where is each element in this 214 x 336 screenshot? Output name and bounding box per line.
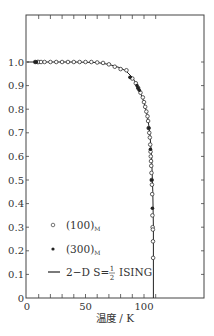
point-100 [150,183,154,187]
x-tick-label: 50 [79,301,92,312]
legend-marker-open-circle [51,223,55,227]
point-100 [119,67,123,71]
point-100 [148,136,152,140]
point-100 [43,60,47,64]
y-tick-label: 0.9 [8,80,24,91]
point-300 [128,76,132,80]
plot-frame [26,15,204,298]
y-tick-label: 1.0 [8,57,24,68]
point-300 [138,89,142,93]
point-100 [84,60,88,64]
point-100 [150,171,154,175]
x-tick-label: 0 [24,301,30,312]
point-100 [151,256,155,260]
legend-label-300: (300)M [66,243,100,256]
point-300 [149,148,153,152]
point-100 [149,155,153,159]
legend-marker-filled-circle [51,247,54,250]
legend-label-100: (100)M [66,219,100,232]
y-tick-label: 0.2 [8,245,24,256]
point-100 [95,61,99,65]
point-100 [145,110,149,114]
legend-frac-den: 2 [110,274,114,282]
axis-ticks [26,15,204,298]
point-100 [142,100,146,104]
y-tick-label: 0.8 [8,104,24,115]
point-100 [60,60,64,64]
axes-box [26,15,204,298]
point-300 [150,178,154,182]
point-100 [113,65,117,69]
point-100 [39,60,43,64]
point-100 [125,68,129,72]
point-100 [49,60,53,64]
y-tick-label: 0.6 [8,151,24,162]
point-100 [151,214,155,218]
point-100 [151,228,155,232]
y-tick-label: 0.3 [8,222,24,233]
point-100 [146,119,150,123]
y-tick-label: 0.4 [8,198,24,209]
legend-label-ising: 2−D S= [66,266,109,278]
y-tick-label: 0.7 [8,127,24,138]
point-100 [146,114,150,118]
point-100 [107,63,111,67]
point-100 [54,60,58,64]
point-100 [66,60,70,64]
legend-frac-num: 1 [110,265,114,273]
y-tick-label: 0.1 [8,269,24,280]
legend-label-ising-suffix: ISING [119,266,152,278]
point-100 [148,143,152,147]
point-100 [90,60,94,64]
y-tick-label: 0.5 [8,175,24,186]
x-axis-label: 温度 / K [96,312,134,324]
point-100 [149,164,153,168]
point-100 [151,240,155,244]
ising-line [27,62,153,298]
x-tick-label: 100 [134,301,153,312]
point-300 [151,207,155,211]
y-tick-label: 0 [18,293,24,304]
point-100 [101,61,105,65]
point-300 [147,126,151,130]
legend: (100)M (300)M 2−D S= 1 2 ISING [48,219,152,282]
point-100 [147,131,151,135]
chart: 05010000.10.20.30.40.50.60.70.80.91.0 (1… [0,0,214,336]
point-100 [72,60,76,64]
point-100 [78,60,82,64]
ising-curve [27,62,153,298]
point-300 [35,60,39,64]
point-100 [150,192,154,196]
point-100 [143,105,147,109]
point-100 [149,159,153,163]
point-100 [141,96,145,100]
